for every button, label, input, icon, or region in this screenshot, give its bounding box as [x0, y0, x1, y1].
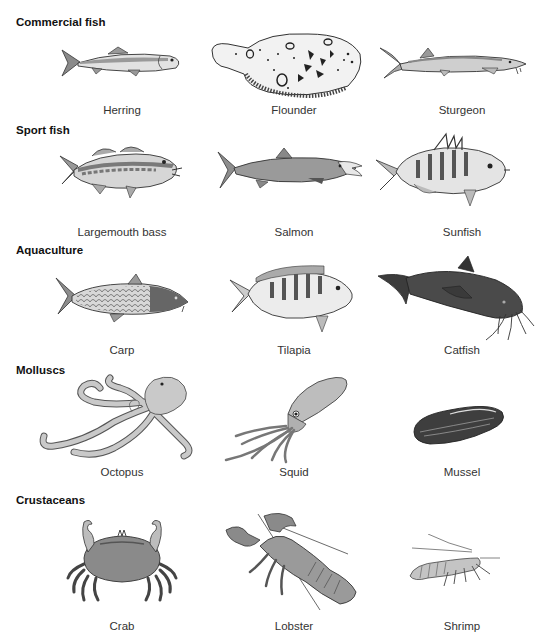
salmon-icon — [216, 146, 366, 196]
sunfish-icon — [374, 132, 524, 212]
crab-icon — [60, 514, 184, 604]
lobster-icon — [220, 510, 370, 614]
label-squid: Squid — [279, 466, 308, 478]
label-herring: Herring — [103, 104, 141, 116]
label-mussel: Mussel — [444, 466, 480, 478]
label-lobster: Lobster — [275, 620, 313, 632]
label-octopus: Octopus — [101, 466, 144, 478]
label-sturgeon: Sturgeon — [439, 104, 486, 116]
label-crab: Crab — [110, 620, 135, 632]
label-catfish: Catfish — [444, 344, 480, 356]
label-tilapia: Tilapia — [277, 344, 310, 356]
mussel-icon — [410, 400, 510, 446]
tilapia-icon — [226, 260, 362, 336]
section-heading-commercial-fish: Commercial fish — [16, 16, 105, 28]
label-largemouth-bass: Largemouth bass — [78, 226, 167, 238]
carp-icon — [54, 272, 194, 324]
section-heading-crustaceans: Crustaceans — [16, 494, 85, 506]
label-shrimp: Shrimp — [444, 620, 480, 632]
catfish-icon — [376, 254, 536, 344]
label-sunfish: Sunfish — [443, 226, 481, 238]
section-heading-aquaculture: Aquaculture — [16, 244, 83, 256]
squid-icon — [222, 374, 362, 464]
sturgeon-icon — [378, 44, 528, 84]
shrimp-icon — [408, 534, 504, 594]
section-heading-sport-fish: Sport fish — [16, 124, 70, 136]
herring-icon — [58, 44, 188, 84]
label-salmon: Salmon — [275, 226, 314, 238]
label-carp: Carp — [110, 344, 135, 356]
flounder-icon — [208, 30, 368, 100]
label-flounder: Flounder — [271, 104, 316, 116]
largemouth-bass-icon — [56, 142, 186, 202]
octopus-icon — [34, 372, 204, 462]
